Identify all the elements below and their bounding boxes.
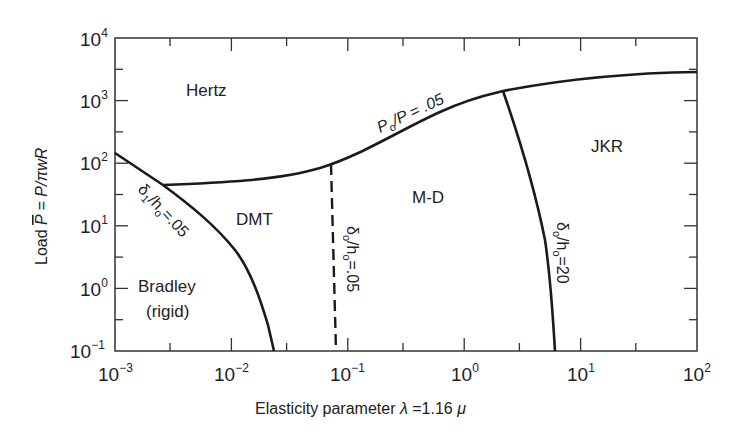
svg-text:10−1: 10−1 <box>70 338 105 362</box>
y-axis-title: Load P = P/πwR <box>33 147 50 265</box>
curve-delta0-h0-005-dashed <box>331 164 336 351</box>
svg-text:101: 101 <box>567 361 595 385</box>
x-axis-title: Elasticity parameter λ =1.16 μ <box>255 400 466 417</box>
svg-text:102: 102 <box>80 150 108 174</box>
region-bradley-sub: (rigid) <box>146 302 189 321</box>
phase-map-chart: 104 103 102 101 100 10−1 10−3 10−2 10−1 … <box>0 0 749 434</box>
svg-text:10−3: 10−3 <box>98 361 133 385</box>
label-delta1-h0: δ1/ho=.05 <box>133 180 193 242</box>
label-delta0-h0-005: δo/ho=.05 <box>341 226 361 292</box>
label-delta0-h0-20: δo/ho=20 <box>551 222 571 284</box>
region-jkr: JKR <box>591 137 623 156</box>
svg-text:102: 102 <box>683 361 711 385</box>
x-tick-labels: 10−3 10−2 10−1 100 101 102 <box>98 361 711 385</box>
region-bradley: Bradley <box>138 277 196 296</box>
svg-text:10−2: 10−2 <box>214 361 249 385</box>
curve-P0-over-P <box>163 72 697 185</box>
svg-text:100: 100 <box>451 361 479 385</box>
curve-delta0-h0-20 <box>503 91 555 351</box>
region-dmt: DMT <box>236 210 273 229</box>
svg-text:103: 103 <box>80 88 108 112</box>
svg-text:100: 100 <box>80 276 108 300</box>
y-tick-labels: 104 103 102 101 100 10−1 <box>70 26 108 362</box>
svg-text:10−1: 10−1 <box>330 361 365 385</box>
svg-text:101: 101 <box>80 213 108 237</box>
region-md: M-D <box>412 188 444 207</box>
region-hertz: Hertz <box>186 81 227 100</box>
svg-text:104: 104 <box>80 26 108 50</box>
